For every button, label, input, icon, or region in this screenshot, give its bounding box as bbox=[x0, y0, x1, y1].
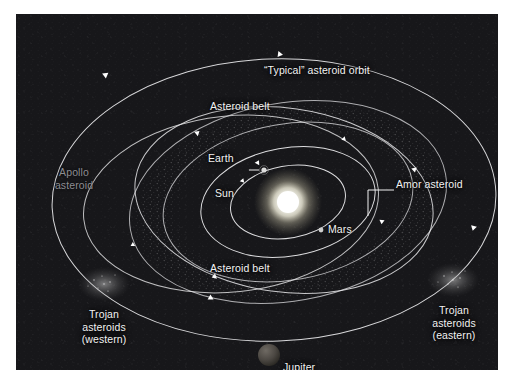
label-asteroid-belt-bottom: Asteroid belt bbox=[210, 262, 270, 275]
label-trojan-asteroids-eastern: Trojan asteroids (eastern) bbox=[404, 304, 498, 342]
label-earth: Earth bbox=[208, 152, 234, 165]
label-apollo-asteroid: Apollo asteroid bbox=[38, 166, 110, 191]
label-typical-asteroid-orbit: “Typical” asteroid orbit bbox=[264, 64, 370, 77]
trojan-swarm-western bbox=[78, 267, 130, 301]
label-amor-asteroid: Amor asteroid bbox=[396, 178, 463, 191]
diagram-plate: “Typical” asteroid orbit Asteroid belt A… bbox=[16, 14, 498, 370]
label-mars: Mars bbox=[328, 223, 352, 236]
jupiter-body bbox=[258, 344, 280, 366]
sun-body bbox=[254, 168, 322, 236]
label-jupiter: Jupiter bbox=[283, 361, 315, 370]
mars-body bbox=[319, 228, 324, 233]
asteroid-belt-diagram: “Typical” asteroid orbit Asteroid belt A… bbox=[0, 0, 513, 387]
label-asteroid-belt-top: Asteroid belt bbox=[210, 100, 270, 113]
trojan-swarm-eastern bbox=[427, 263, 479, 297]
label-trojan-asteroids-western: Trojan asteroids (western) bbox=[54, 308, 154, 346]
label-sun: Sun bbox=[215, 187, 234, 200]
